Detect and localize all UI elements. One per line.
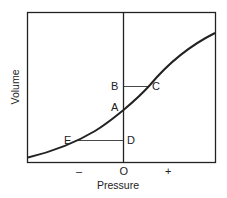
point-label-d: D [127,134,135,146]
point-label-a: A [111,101,119,113]
point-label-b: B [111,80,118,92]
tick-negative: – [76,165,83,177]
pressure-volume-diagram: B C A E D – O + Pressure Volume [0,0,227,198]
tick-zero: O [120,165,129,177]
point-label-e: E [64,134,71,146]
point-label-c: C [152,80,160,92]
x-axis-title: Pressure [97,179,139,191]
y-axis-title: Volume [9,69,21,104]
plot-frame [28,13,216,163]
pv-curve [28,33,215,158]
tick-positive: + [165,165,171,177]
